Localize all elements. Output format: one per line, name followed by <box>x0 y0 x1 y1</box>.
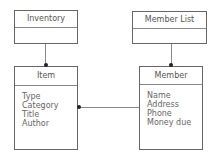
association-dot-icon <box>169 63 173 67</box>
class-box-member: Member Name Address Phone Money due <box>139 66 203 150</box>
class-attributes-member: Name Address Phone Money due <box>140 85 202 127</box>
attribute: Title <box>22 110 77 119</box>
association-dot-icon <box>77 105 81 109</box>
connector-item-member <box>79 107 139 108</box>
class-attributes-item: Type Category Title Author <box>15 86 77 128</box>
class-box-inventory: Inventory <box>14 10 78 44</box>
attribute: Author <box>22 119 77 128</box>
attribute: Address <box>147 100 202 109</box>
class-box-item: Item Type Category Title Author <box>14 66 78 150</box>
class-title-member-list: Member List <box>133 12 206 29</box>
connector-member-list-member <box>171 44 172 65</box>
connector-inventory-item <box>45 44 46 65</box>
association-dot-icon <box>44 63 48 67</box>
class-title-member: Member <box>140 67 202 85</box>
class-box-member-list: Member List <box>132 11 207 44</box>
attribute: Type <box>22 92 77 101</box>
attribute: Money due <box>147 118 202 127</box>
class-title-inventory: Inventory <box>15 11 77 28</box>
attribute: Name <box>147 91 202 100</box>
attribute: Category <box>22 101 77 110</box>
class-title-item: Item <box>15 67 77 86</box>
attribute: Phone <box>147 109 202 118</box>
